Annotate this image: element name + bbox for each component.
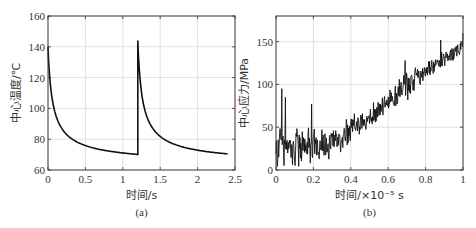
- y-tick-label: 100: [29, 102, 46, 114]
- y-tick-label: 80: [34, 133, 46, 145]
- x-axis-label: 时间/×10⁻⁵ s: [335, 189, 404, 202]
- y-tick-label: 160: [29, 10, 46, 22]
- x-tick-label: 1: [120, 173, 126, 185]
- stress-line: [276, 33, 463, 166]
- temperature-line: [48, 41, 228, 155]
- y-tick-label: 100: [257, 78, 274, 90]
- y-tick-label: 60: [34, 164, 46, 176]
- figure: 00.511.522.56080100120140160时间/s中心温度/℃(a…: [0, 0, 476, 228]
- x-tick-label: 0: [45, 173, 51, 185]
- x-tick-label: 1: [460, 173, 466, 185]
- x-tick-label: 0.2: [307, 173, 321, 185]
- x-tick-label: 1.5: [153, 173, 167, 185]
- x-axis-label: 时间/s: [126, 189, 158, 202]
- x-tick-label: 0: [273, 173, 279, 185]
- x-tick-label: 0.6: [381, 173, 395, 185]
- panel-caption: (b): [363, 206, 376, 219]
- panel-caption: (a): [135, 206, 148, 219]
- y-tick-label: 140: [29, 41, 46, 53]
- y-axis-label: 中心应力/MPa: [237, 58, 251, 128]
- y-tick-label: 150: [257, 36, 274, 48]
- x-tick-label: 0.8: [419, 173, 433, 185]
- x-tick-label: 2.5: [228, 173, 242, 185]
- y-axis-label: 中心温度/℃: [9, 63, 23, 123]
- y-tick-label: 120: [29, 72, 46, 84]
- x-tick-label: 0.5: [79, 173, 93, 185]
- y-tick-label: 50: [262, 121, 274, 133]
- x-tick-label: 0.4: [344, 173, 358, 185]
- chart-b: 00.20.40.60.81050100150时间/×10⁻⁵ s中心应力/MP…: [237, 16, 466, 219]
- x-tick-label: 2: [195, 173, 201, 185]
- y-tick-label: 0: [268, 164, 274, 176]
- chart-a: 00.511.522.56080100120140160时间/s中心温度/℃(a…: [9, 10, 242, 219]
